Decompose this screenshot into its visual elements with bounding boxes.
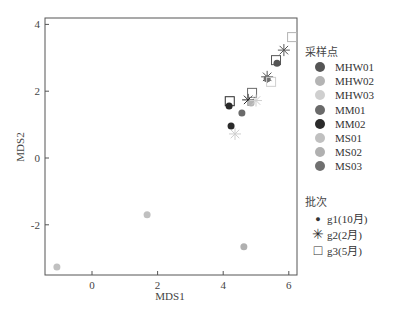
batch-legend-label: g1(10月) [327, 212, 367, 226]
x-tick-label: 4 [220, 279, 226, 291]
circle-icon [315, 133, 325, 143]
circle-icon [315, 62, 325, 72]
y-tick-label: -2 [31, 219, 40, 231]
site-legend-item: MM02 [305, 117, 374, 131]
site-legend-label: MHW02 [335, 74, 374, 88]
batch-legend-item: ●g1(10月) [305, 211, 367, 227]
point-star [229, 128, 241, 140]
point-circle [264, 75, 271, 82]
batch-legend-title: 批次 [305, 195, 367, 209]
site-legend-item: MHW03 [305, 88, 374, 102]
point-circle [228, 122, 235, 129]
point-star [250, 95, 262, 107]
batch-legend: 批次 ●g1(10月)✳g2(2月)□g3(5月) [305, 195, 367, 259]
site-legend-item: MS01 [305, 131, 374, 145]
site-legend: 采样点 MHW01MHW02MHW03MM01MM02MS01MS02MS03 [305, 45, 374, 174]
batch-legend-label: g3(5月) [327, 244, 362, 258]
site-legend-label: MHW01 [335, 60, 374, 74]
data-points [53, 33, 296, 271]
circle-icon [315, 119, 325, 129]
site-legend-item: MS03 [305, 159, 374, 173]
y-axis-label: MDS2 [14, 132, 26, 161]
site-legend-label: MHW03 [335, 88, 374, 102]
circle-icon [315, 147, 325, 157]
y-tick-label: 0 [35, 152, 41, 164]
circle-icon [315, 90, 325, 100]
site-legend-label: MM01 [335, 103, 366, 117]
site-legend-label: MS03 [335, 159, 362, 173]
plot-frame [45, 18, 297, 275]
site-legend-item: MS02 [305, 145, 374, 159]
point-circle [144, 211, 151, 218]
circle-icon [315, 76, 325, 86]
site-legend-item: MHW01 [305, 60, 374, 74]
site-legend-label: MS02 [335, 145, 362, 159]
circle-icon: ● [311, 212, 325, 226]
point-circle [273, 60, 280, 67]
circle-icon [315, 161, 325, 171]
x-tick-label: 6 [286, 279, 292, 291]
batch-legend-label: g2(2月) [327, 228, 362, 242]
y-tick-label: 4 [35, 18, 41, 30]
site-legend-label: MM02 [335, 117, 366, 131]
batch-legend-item: □g3(5月) [305, 243, 367, 259]
x-tick-label: 0 [89, 279, 95, 291]
site-legend-title: 采样点 [305, 45, 374, 59]
point-star [278, 44, 290, 56]
point-square [288, 33, 297, 42]
plot-axes: 0246-2024 [31, 18, 297, 291]
site-legend-item: MHW02 [305, 74, 374, 88]
point-circle [240, 243, 247, 250]
circle-icon [315, 105, 325, 115]
site-legend-item: MM01 [305, 103, 374, 117]
asterisk-icon: ✳ [311, 228, 325, 242]
point-circle [53, 263, 60, 270]
square-icon: □ [311, 244, 325, 258]
x-axis-label: MDS1 [155, 290, 184, 302]
site-legend-label: MS01 [335, 131, 362, 145]
batch-legend-item: ✳g2(2月) [305, 227, 367, 243]
y-tick-label: 2 [35, 85, 41, 97]
point-circle [238, 109, 245, 116]
